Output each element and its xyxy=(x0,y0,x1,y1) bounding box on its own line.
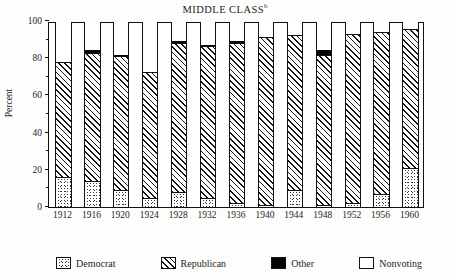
bar-segment-democrat-1924 xyxy=(143,198,157,207)
y-axis-minor-tick xyxy=(46,39,49,40)
bar-1920 xyxy=(113,23,129,207)
black-swatch xyxy=(271,257,286,269)
y-axis-tick-label: 100 xyxy=(16,17,42,27)
hatch-swatch xyxy=(161,257,176,269)
bar-segment-nonvoting-1932 xyxy=(201,21,215,45)
chart-title-text: MIDDLE CLASS xyxy=(182,4,264,15)
x-axis-tick-label-1952: 1952 xyxy=(337,211,367,221)
bar-1944 xyxy=(287,23,303,207)
x-axis-tick-label-1936: 1936 xyxy=(221,211,251,221)
legend-item-democrat: Democrat xyxy=(56,257,115,269)
bar-segment-republican-1932 xyxy=(201,46,215,198)
y-axis-tick-label: 0 xyxy=(16,203,42,213)
legend-label: Other xyxy=(291,258,314,269)
bar-1932 xyxy=(200,23,216,207)
y-axis-tick xyxy=(45,20,50,21)
bar-segment-republican-1960 xyxy=(403,29,417,168)
y-axis-tick-label: 40 xyxy=(16,129,42,139)
bar-1924 xyxy=(142,23,158,207)
bar-segment-nonvoting-1936 xyxy=(230,21,244,41)
bar-segment-nonvoting-1948 xyxy=(317,21,331,50)
bar-1952 xyxy=(345,23,361,207)
bar-1912 xyxy=(55,23,71,207)
bar-segment-republican-1952 xyxy=(346,34,360,203)
bar-segment-nonvoting-1928 xyxy=(172,21,186,41)
bar-1916 xyxy=(84,23,100,207)
bar-segment-democrat-1960 xyxy=(403,168,417,207)
plot-area xyxy=(48,22,424,208)
x-axis-tick-label-1924: 1924 xyxy=(134,211,164,221)
x-axis-tick-label-1940: 1940 xyxy=(250,211,280,221)
y-axis-tick xyxy=(45,94,50,95)
bar-segment-democrat-1912 xyxy=(56,177,70,207)
bar-segment-democrat-1928 xyxy=(172,192,186,207)
chart-figure: MIDDLE CLASSb Percent DemocratRepublican… xyxy=(0,0,450,280)
bar-segment-democrat-1916 xyxy=(85,181,99,207)
bar-segment-other-1928 xyxy=(172,41,186,44)
y-axis-tick-label: 20 xyxy=(16,166,42,176)
y-axis-tick xyxy=(45,169,50,170)
y-axis-tick xyxy=(45,206,50,207)
legend-item-nonvoting: Nonvoting xyxy=(359,257,422,269)
y-axis-minor-tick xyxy=(46,76,49,77)
y-axis-tick-label: 60 xyxy=(16,91,42,101)
bar-segment-republican-1948 xyxy=(317,55,331,205)
bar-segment-democrat-1944 xyxy=(288,190,302,207)
bar-segment-nonvoting-1940 xyxy=(259,21,273,37)
bar-segment-nonvoting-1956 xyxy=(374,21,388,32)
bar-segment-nonvoting-1920 xyxy=(114,21,128,55)
bar-segment-democrat-1956 xyxy=(374,194,388,207)
x-axis-tick-label-1928: 1928 xyxy=(163,211,193,221)
legend-label: Republican xyxy=(181,258,227,269)
bar-segment-republican-1912 xyxy=(56,62,70,177)
chart-title: MIDDLE CLASSb xyxy=(0,2,450,15)
bar-segment-democrat-1936 xyxy=(230,203,244,207)
bar-segment-nonvoting-1944 xyxy=(288,21,302,35)
y-axis-tick xyxy=(45,132,50,133)
bar-segment-republican-1928 xyxy=(172,43,186,192)
bar-1948 xyxy=(316,23,332,207)
bar-segment-nonvoting-1916 xyxy=(85,21,99,50)
x-axis-tick-label-1960: 1960 xyxy=(395,211,425,221)
bar-segment-republican-1944 xyxy=(288,35,302,190)
bar-segment-nonvoting-1960 xyxy=(403,21,417,29)
y-axis-label: Percent xyxy=(4,73,14,133)
chart-title-superscript: b xyxy=(264,2,268,10)
bar-1960 xyxy=(402,23,418,207)
bar-segment-republican-1936 xyxy=(230,43,244,203)
bar-segment-other-1948 xyxy=(317,50,331,56)
x-axis-tick-label-1912: 1912 xyxy=(47,211,77,221)
bar-segment-democrat-1920 xyxy=(114,190,128,207)
y-axis-tick xyxy=(45,57,50,58)
bar-segment-other-1920 xyxy=(114,55,128,56)
bar-1956 xyxy=(373,23,389,207)
x-axis-tick-label-1948: 1948 xyxy=(308,211,338,221)
bar-segment-nonvoting-1952 xyxy=(346,21,360,34)
bar-segment-other-1916 xyxy=(85,50,99,53)
bar-segment-republican-1956 xyxy=(374,32,388,194)
x-axis-tick-label-1944: 1944 xyxy=(279,211,309,221)
bar-segment-democrat-1932 xyxy=(201,198,215,207)
bar-segment-republican-1924 xyxy=(143,72,157,198)
bar-1936 xyxy=(229,23,245,207)
x-axis-tick-label-1932: 1932 xyxy=(192,211,222,221)
y-axis-minor-tick xyxy=(46,187,49,188)
bar-segment-nonvoting-1924 xyxy=(143,21,157,72)
legend-label: Democrat xyxy=(76,258,115,269)
bar-segment-democrat-1940 xyxy=(259,205,273,207)
bar-segment-democrat-1948 xyxy=(317,205,331,207)
bar-segment-nonvoting-1912 xyxy=(56,21,70,62)
x-axis-tick-label-1916: 1916 xyxy=(76,211,106,221)
y-axis-minor-tick xyxy=(46,113,49,114)
bar-1928 xyxy=(171,23,187,207)
bar-segment-democrat-1952 xyxy=(346,203,360,207)
white-swatch xyxy=(359,257,374,269)
stipple-swatch xyxy=(56,257,71,269)
bar-segment-other-1932 xyxy=(201,45,215,46)
legend-item-other: Other xyxy=(271,257,314,269)
x-axis-tick-label-1956: 1956 xyxy=(366,211,396,221)
y-axis-tick-label: 80 xyxy=(16,54,42,64)
legend-label: Nonvoting xyxy=(379,258,422,269)
bar-segment-republican-1920 xyxy=(114,56,128,190)
chart-legend: DemocratRepublicanOtherNonvoting xyxy=(48,252,424,274)
